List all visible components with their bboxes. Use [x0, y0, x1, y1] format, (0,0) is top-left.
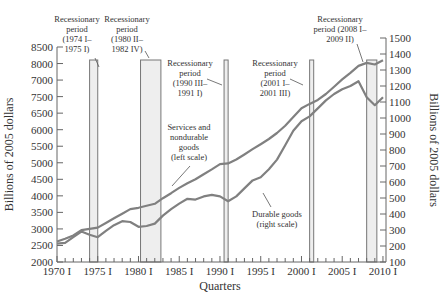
- durable-annotation: (right scale): [257, 219, 298, 229]
- recession-pointer: [290, 79, 303, 85]
- right-tick-label: 1400: [389, 48, 412, 60]
- recession-label: period: [179, 68, 201, 78]
- recession-label: (2001 I–: [260, 78, 290, 88]
- recession-pointer: [207, 79, 222, 85]
- recession-label: Recessionary: [252, 58, 298, 68]
- recession-label: period: [66, 24, 88, 34]
- right-tick-label: 1300: [389, 64, 412, 76]
- recession-label: period: [116, 24, 138, 34]
- x-tick-label: 1980 I: [124, 265, 153, 277]
- chart: 8500800070007500650060005500500045004000…: [0, 0, 441, 305]
- left-tick-label: 8000: [31, 58, 54, 70]
- left-tick-label: 4000: [31, 190, 54, 202]
- recession-label: (1990 III–: [173, 78, 208, 88]
- durable-goods-line: [57, 81, 383, 243]
- left-tick-label: 7000: [31, 74, 54, 86]
- right-tick-label: 600: [389, 176, 406, 188]
- x-tick-label: 2000 I: [287, 265, 316, 277]
- chart-labels: Recessionaryperiod(1974 I–1975 I)Recessi…: [54, 14, 367, 229]
- recession-bar: [310, 60, 314, 262]
- left-tick-label: 3000: [31, 223, 54, 235]
- recession-label: period (2008 I–: [314, 24, 368, 34]
- recession-bar: [90, 60, 98, 262]
- recession-pointer: [145, 51, 149, 58]
- x-tick-label: 1970 I: [43, 265, 72, 277]
- services-annotation: Services and: [167, 122, 211, 132]
- recession-label: Recessionary: [317, 14, 363, 24]
- left-tick-label: 3500: [31, 206, 54, 218]
- recession-bar: [224, 60, 228, 262]
- recession-label: (1980 II–: [111, 34, 144, 44]
- services-annotation: (left scale): [171, 152, 207, 162]
- x-axis-title: Quarters: [199, 279, 241, 293]
- right-tick-label: 1100: [389, 96, 411, 108]
- left-tick-label: 4500: [31, 173, 54, 185]
- right-tick-label: 400: [389, 208, 406, 220]
- services-annotation: goods: [179, 142, 199, 152]
- recession-bar: [141, 60, 161, 262]
- x-tick-label: 1990 I: [206, 265, 235, 277]
- x-tick-label: 2005 I: [328, 265, 357, 277]
- recession-label: Recessionary: [104, 14, 150, 24]
- recession-label: 1975 I): [65, 44, 90, 54]
- recession-pointer: [357, 44, 363, 62]
- x-tick-label: 2010 I: [369, 265, 398, 277]
- x-tick-label: 1995 I: [247, 265, 276, 277]
- right-tick-label: 1500: [389, 32, 412, 44]
- recession-bar: [367, 60, 377, 262]
- services-nondurable-line: [57, 60, 383, 241]
- x-tick-label: 1985 I: [165, 265, 194, 277]
- right-tick-label: 1000: [389, 112, 412, 124]
- left-tick-label: 5500: [31, 140, 54, 152]
- recession-label: Recessionary: [54, 14, 100, 24]
- recession-label: period: [264, 68, 286, 78]
- right-tick-label: 700: [389, 160, 406, 172]
- right-axis-title: Billions of 2005 dollars: [427, 93, 441, 207]
- left-tick-label: 7500: [31, 91, 54, 103]
- durable-annotation: Durable goods: [252, 209, 302, 219]
- durable-pointer: [263, 193, 271, 207]
- left-tick-label: 5000: [31, 157, 54, 169]
- recession-label: Recessionary: [167, 58, 213, 68]
- right-tick-label: 1200: [389, 80, 412, 92]
- recession-label: 2009 II): [326, 34, 354, 44]
- left-tick-label: 6500: [31, 107, 54, 119]
- left-tick-label: 8500: [31, 41, 54, 53]
- recession-label: 1982 IV): [112, 44, 143, 54]
- recession-label: 1991 I): [178, 88, 203, 98]
- services-annotation: nondurable: [170, 132, 208, 142]
- right-tick-label: 200: [389, 240, 406, 252]
- recession-label: (1974 I–: [62, 34, 92, 44]
- x-tick-label: 1975 I: [84, 265, 113, 277]
- right-tick-label: 900: [389, 128, 406, 140]
- right-tick-label: 500: [389, 192, 406, 204]
- left-axis-title: Billions of 2005 dollars: [2, 97, 16, 211]
- left-tick-label: 6000: [31, 124, 54, 136]
- left-tick-label: 2500: [31, 239, 54, 251]
- right-tick-label: 800: [389, 144, 406, 156]
- right-tick-label: 300: [389, 224, 406, 236]
- series-lines: [57, 60, 383, 243]
- recession-label: 2001 III): [260, 88, 291, 98]
